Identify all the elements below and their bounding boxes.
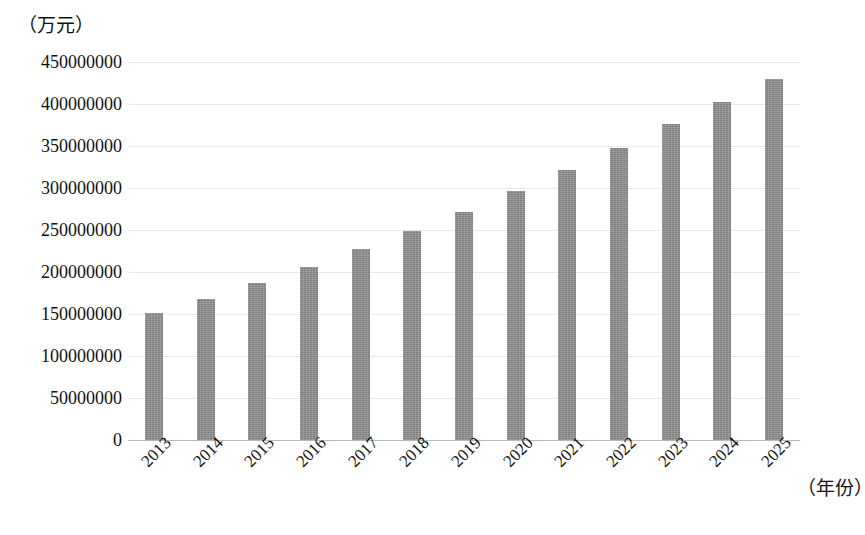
- y-tick-label: 350000000: [4, 137, 122, 155]
- x-axis-unit-label: （年份）: [797, 479, 865, 498]
- gridline: [128, 62, 800, 63]
- x-tick-label: 2020: [500, 434, 536, 470]
- x-tick-label: 2017: [345, 434, 381, 470]
- x-tick-label: 2024: [706, 434, 742, 470]
- bar: [713, 102, 731, 440]
- x-tick-label: 2022: [603, 434, 639, 470]
- x-tick-label: 2016: [293, 434, 329, 470]
- bar: [145, 313, 163, 440]
- bar: [765, 79, 783, 440]
- y-tick-label: 250000000: [4, 221, 122, 239]
- y-tick-label: 50000000: [4, 389, 122, 407]
- y-tick-label: 400000000: [4, 95, 122, 113]
- x-tick-label: 2013: [138, 434, 174, 470]
- gridline: [128, 188, 800, 189]
- y-tick-label: 0: [4, 431, 122, 449]
- y-tick-label: 200000000: [4, 263, 122, 281]
- bar: [300, 267, 318, 440]
- x-tick-label: 2021: [551, 434, 587, 470]
- bar: [403, 231, 421, 440]
- x-tick-label: 2019: [448, 434, 484, 470]
- bar: [455, 212, 473, 440]
- gridline: [128, 146, 800, 147]
- x-tick-label: 2025: [758, 434, 794, 470]
- bar: [558, 170, 576, 440]
- y-tick-label: 450000000: [4, 53, 122, 71]
- x-tick-label: 2018: [396, 434, 432, 470]
- y-axis-tick-labels: 0500000001000000001500000002000000002500…: [0, 0, 122, 535]
- plot-area: [128, 62, 800, 440]
- bar: [197, 299, 215, 440]
- y-tick-label: 100000000: [4, 347, 122, 365]
- bar: [352, 249, 370, 440]
- bar: [662, 124, 680, 440]
- bar: [248, 283, 266, 440]
- bar: [610, 148, 628, 440]
- x-tick-label: 2015: [241, 434, 277, 470]
- x-tick-label: 2023: [655, 434, 691, 470]
- y-tick-label: 150000000: [4, 305, 122, 323]
- x-axis-tick-labels: 2013201420152016201720182019202020212022…: [128, 440, 800, 535]
- bar: [507, 191, 525, 440]
- y-tick-label: 300000000: [4, 179, 122, 197]
- x-tick-label: 2014: [190, 434, 226, 470]
- gridline: [128, 104, 800, 105]
